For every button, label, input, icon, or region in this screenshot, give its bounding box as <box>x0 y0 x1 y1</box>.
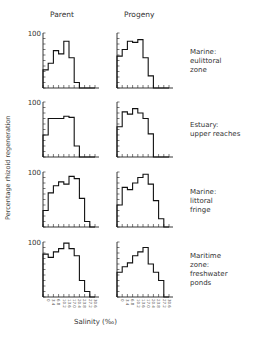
x-tick-label: 27.2 <box>88 299 93 308</box>
x-tick-label: 6.8 <box>56 299 61 306</box>
x-tick-label: 0 <box>120 299 125 302</box>
x-tick-label: 10.2 <box>136 299 141 308</box>
histogram-outline <box>43 41 95 88</box>
x-tick-label: 6.8 <box>130 299 135 306</box>
row-label-3: Marine: littoral fringe <box>190 188 216 215</box>
x-tick-label: 13.6 <box>141 299 146 308</box>
histogram-outline <box>117 109 169 157</box>
histogram-outline <box>117 40 169 88</box>
x-tick-label: 17.0 <box>146 299 151 308</box>
histogram-outline <box>117 174 169 227</box>
y-tick-100: 100 <box>28 99 41 107</box>
histogram-outline <box>43 116 95 157</box>
x-tick-label: 20.4 <box>151 299 156 308</box>
y-tick-100: 100 <box>28 30 41 38</box>
x-tick-label: 0 <box>46 299 51 302</box>
x-tick-label: 20.4 <box>77 299 82 308</box>
x-tick-label: 27.2 <box>162 299 167 308</box>
column-header-progeny: Progeny <box>124 10 154 19</box>
x-tick-label: 10.2 <box>62 299 67 308</box>
x-tick-label: 17.0 <box>72 299 77 308</box>
x-tick-label: 3.4 <box>125 299 130 306</box>
row-label-1: Marine: eulittoral zone <box>190 48 222 75</box>
histogram-outline <box>117 248 169 298</box>
x-tick-label: 3.4 <box>51 299 56 306</box>
row-label-2: Estuary: upper reaches <box>190 121 240 139</box>
y-tick-100: 100 <box>28 169 41 177</box>
x-tick-label: 13.6 <box>67 299 72 308</box>
histogram-outline <box>43 176 95 227</box>
histogram-4-progeny: 03.46.810.213.617.020.423.827.230.6 <box>95 238 181 323</box>
x-tick-label: 23.8 <box>82 299 87 308</box>
y-axis-label: Percentage rhizoid regeneration <box>4 70 14 220</box>
x-tick-label: 23.8 <box>156 299 161 308</box>
x-tick-label: 30.6 <box>167 299 172 308</box>
y-tick-100: 100 <box>28 239 41 247</box>
histogram-outline <box>43 243 95 297</box>
column-header-parent: Parent <box>50 10 74 19</box>
row-label-4: Maritime zone: freshwater ponds <box>190 252 228 288</box>
